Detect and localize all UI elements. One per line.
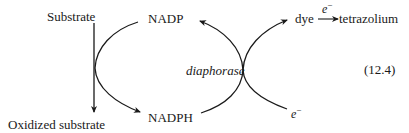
equation-number: (12.4) <box>364 63 395 76</box>
nadp-to-nadph-arrow <box>95 22 140 112</box>
oxidized-substrate-label: Oxidized substrate <box>8 118 105 131</box>
electron-charge: − <box>327 0 332 10</box>
nadp-label: NADP <box>148 12 183 25</box>
electron-label-bottom: e− <box>291 106 301 120</box>
electron-charge: − <box>296 105 301 115</box>
reaction-diagram: Substrate NADP dye e− tetrazolium diapho… <box>0 0 409 133</box>
electron-to-dye-arrow <box>243 20 287 109</box>
nadph-label: NADPH <box>148 111 193 124</box>
electron-label-top: e− <box>322 1 332 15</box>
dye-label: dye <box>295 12 314 25</box>
enzyme-label: diaphorase <box>186 64 245 77</box>
substrate-label: Substrate <box>47 10 95 23</box>
tetrazolium-label: tetrazolium <box>339 12 398 25</box>
